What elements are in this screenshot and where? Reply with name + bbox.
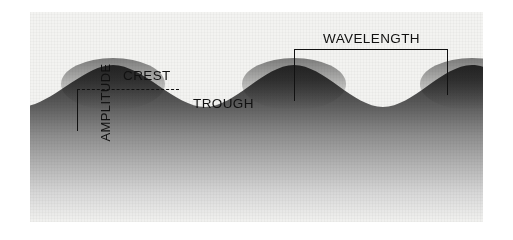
amplitude-dashed-guide bbox=[77, 89, 179, 90]
wavelength-bracket bbox=[294, 49, 448, 101]
wavelength-bracket-top bbox=[294, 49, 448, 50]
amplitude-vertical-rule bbox=[77, 89, 78, 131]
crest-label: CREST bbox=[123, 69, 171, 83]
amplitude-label: AMPLITUDE bbox=[99, 53, 112, 153]
wavelength-bracket-left-tick bbox=[294, 49, 295, 101]
diagram-panel: AMPLITUDE CREST TROUGH WAVELENGTH bbox=[30, 12, 483, 222]
wavelength-label: WAVELENGTH bbox=[323, 32, 420, 46]
wavelength-bracket-right-tick bbox=[447, 49, 448, 95]
figure-canvas: AMPLITUDE CREST TROUGH WAVELENGTH bbox=[0, 0, 513, 240]
amplitude-annotation: AMPLITUDE bbox=[63, 36, 77, 134]
trough-label: TROUGH bbox=[193, 97, 254, 111]
